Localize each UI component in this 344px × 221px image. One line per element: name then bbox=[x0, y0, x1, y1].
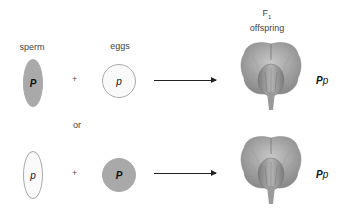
purple-flower-icon bbox=[238, 38, 304, 110]
egg-cell-recessive: p bbox=[102, 64, 136, 98]
sperm-label: sperm bbox=[12, 42, 52, 52]
sperm-cell-dominant: P bbox=[23, 59, 43, 107]
sperm-cell-recessive: p bbox=[23, 151, 43, 199]
offspring-genotype: Pp bbox=[316, 169, 328, 180]
genotype-recessive-allele: p bbox=[323, 75, 329, 86]
plus-sign: + bbox=[72, 168, 77, 178]
plus-sign: + bbox=[72, 74, 77, 84]
sperm-allele: P bbox=[30, 78, 37, 89]
genotype-dominant-allele: P bbox=[316, 75, 323, 86]
purple-flower-icon bbox=[238, 132, 304, 204]
offspring-genotype: Pp bbox=[316, 75, 328, 86]
egg-cell-dominant: P bbox=[102, 158, 136, 192]
arrow-icon bbox=[154, 173, 216, 174]
genotype-dominant-allele: P bbox=[316, 169, 323, 180]
sperm-allele: p bbox=[30, 170, 36, 181]
offspring-label: offspring bbox=[250, 23, 284, 33]
f1-offspring-label: F1 offspring bbox=[232, 8, 302, 34]
eggs-label: eggs bbox=[100, 41, 140, 51]
genotype-recessive-allele: p bbox=[323, 169, 329, 180]
f1-subscript: 1 bbox=[268, 14, 271, 20]
egg-allele: P bbox=[116, 170, 123, 181]
or-label: or bbox=[62, 120, 92, 130]
egg-allele: p bbox=[116, 76, 122, 87]
arrow-icon bbox=[154, 80, 216, 81]
